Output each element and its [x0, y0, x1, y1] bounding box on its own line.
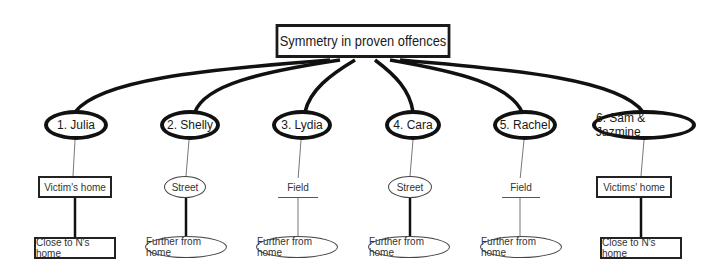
distance-node-rachel: Further from home	[480, 236, 562, 258]
case-node-cara: 4. Cara	[385, 110, 441, 140]
location-node-shelly: Street	[164, 176, 206, 198]
location-node-rachel: Field	[502, 178, 540, 198]
case-node-shelly: 2. Shelly	[160, 110, 220, 140]
location-node-cara: Street	[388, 176, 432, 198]
location-node-lydia: Field	[278, 178, 318, 198]
distance-node-julia: Close to N's home	[34, 237, 116, 259]
diagram-title: Symmetry in proven offences	[276, 24, 451, 58]
distance-node-shelly: Further from home	[145, 236, 227, 258]
location-node-sam-jazmine: Victims' home	[596, 176, 672, 198]
case-node-lydia: 3. Lydia	[272, 110, 332, 140]
location-node-julia: Victim's home	[38, 176, 112, 198]
distance-node-cara: Further from home	[368, 236, 450, 258]
case-node-sam-jazmine: 6. Sam & Jazmine	[592, 110, 696, 140]
distance-node-sam-jazmine: Close to N's home	[600, 237, 682, 259]
case-node-julia: 1. Julia	[44, 110, 108, 140]
case-node-rachel: 5. Rachel	[493, 110, 557, 140]
distance-node-lydia: Further from home	[256, 236, 338, 258]
